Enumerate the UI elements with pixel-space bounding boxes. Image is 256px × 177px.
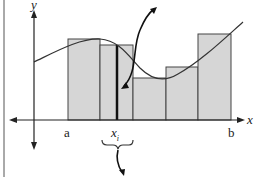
left-endpoint-label: a [64, 126, 70, 139]
sample-point-label: xi [111, 126, 119, 143]
right-endpoint-label: b [228, 126, 235, 139]
x-axis-left-arrow-icon [9, 117, 17, 123]
bar-1 [68, 39, 100, 120]
y-axis-down-arrow-icon [31, 142, 37, 150]
y-axis-label: y [31, 0, 37, 11]
riemann-bars [68, 34, 231, 120]
x-axis-right-arrow-icon [237, 117, 245, 123]
riemann-sum-diagram [0, 0, 256, 177]
callout-arrow-bottom-head-icon [119, 169, 125, 176]
bar-3 [133, 78, 166, 120]
x-axis-label: x [247, 113, 253, 126]
callout-arrow-bottom [117, 150, 122, 172]
sample-point-subscript: i [117, 134, 119, 143]
bar-4 [166, 67, 198, 120]
